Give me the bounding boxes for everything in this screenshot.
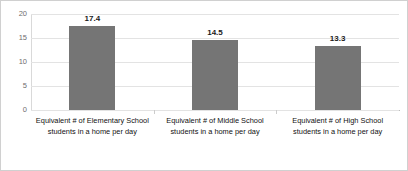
bar-chart: 05101520 17.414.513.3 Equivalent # of El…: [0, 0, 408, 171]
bar-value-label: 13.3: [330, 35, 346, 43]
plot-area: 17.414.513.3: [31, 14, 399, 110]
category-separator-tick: [154, 110, 155, 114]
x-axis-category-labels: Equivalent # of Elementary School studen…: [31, 113, 399, 161]
bar[interactable]: [69, 26, 115, 110]
category-label: Equivalent # of Elementary School studen…: [31, 113, 154, 161]
bar-value-label: 17.4: [85, 15, 101, 23]
bar[interactable]: [315, 46, 361, 110]
y-axis-tick-label: 20: [5, 10, 27, 18]
category-separator-tick: [276, 110, 277, 114]
y-axis-tick-label: 15: [5, 34, 27, 42]
y-axis-tick-label: 0: [5, 106, 27, 114]
gridline: [31, 110, 399, 111]
y-axis-tick-labels: 05101520: [3, 14, 27, 110]
category-label: Equivalent # of Middle School students i…: [154, 113, 277, 161]
bar[interactable]: [192, 40, 238, 110]
y-axis-tick-label: 10: [5, 58, 27, 66]
y-axis-tick-label: 5: [5, 82, 27, 90]
bar-slot: 13.3: [276, 14, 399, 110]
bar-slot: 17.4: [31, 14, 154, 110]
bar-value-label: 14.5: [207, 29, 223, 37]
category-label: Equivalent # of High School students in …: [276, 113, 399, 161]
bar-slot: 14.5: [154, 14, 277, 110]
